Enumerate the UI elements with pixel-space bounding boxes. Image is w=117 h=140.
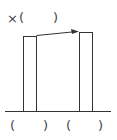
bottom-right-open-paren: (	[66, 119, 71, 133]
bottom-left-open-paren: (	[10, 119, 15, 133]
bottom-left-close-paren: )	[43, 119, 48, 133]
arrow-shaft	[37, 32, 75, 36]
right-bar	[80, 33, 93, 112]
bottom-right-close-paren: )	[98, 119, 103, 133]
left-bar	[24, 37, 37, 112]
arrow-head-icon	[71, 29, 79, 34]
